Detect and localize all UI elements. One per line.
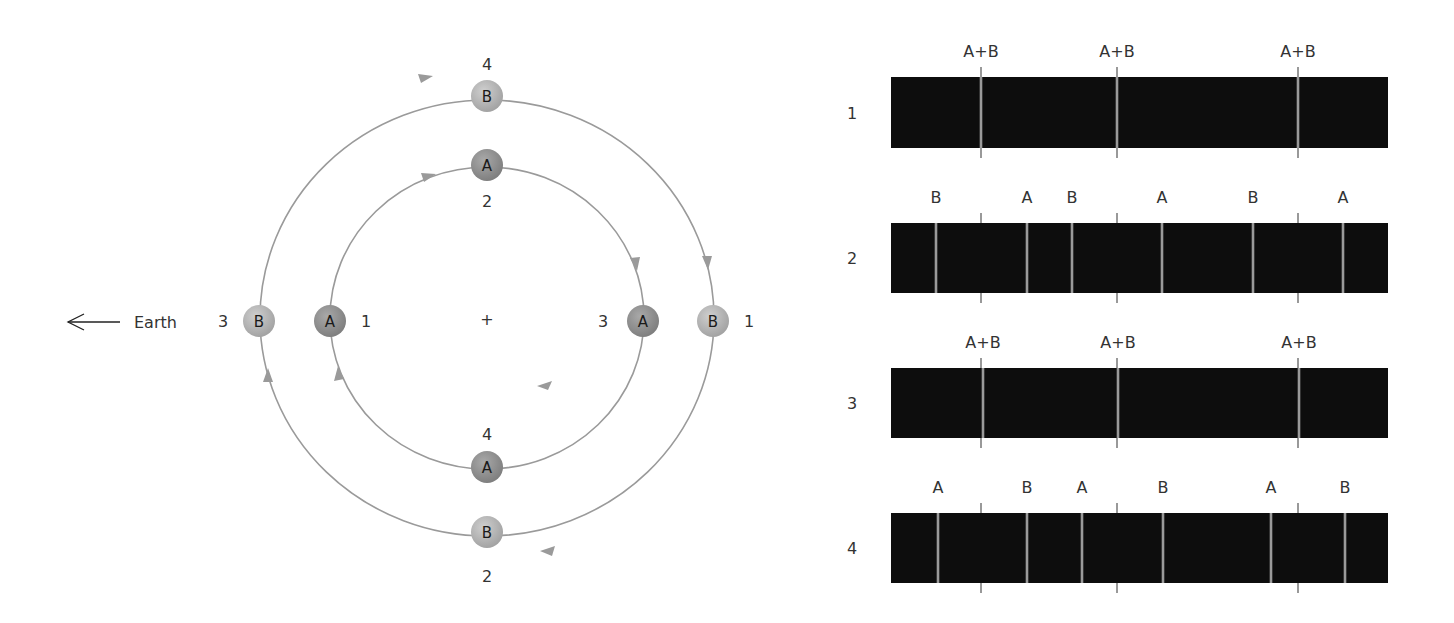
spectral-line-label: B xyxy=(1158,478,1169,497)
spectra-panel: 1A+BA+BA+B2BABABA3A+BA+BA+B4ABABAB xyxy=(847,42,1388,593)
spectral-line-label: A+B xyxy=(1099,42,1134,61)
star-letter: A xyxy=(325,313,336,331)
arrowhead-icon xyxy=(537,381,552,390)
star-letter: A xyxy=(482,157,493,175)
star-a-phase-3: A3 xyxy=(598,305,659,337)
earth-direction: Earth xyxy=(68,313,177,332)
spectrum-row-1: 1A+BA+BA+B xyxy=(847,42,1388,158)
spectral-line-label: A xyxy=(1266,478,1277,497)
phase-number: 3 xyxy=(598,312,608,331)
star-a-phase-2: A2 xyxy=(471,149,503,211)
spectral-line-label: B xyxy=(1340,478,1351,497)
star-letter: B xyxy=(482,524,492,542)
spectral-line-label: B xyxy=(1022,478,1033,497)
spectrum-phase-label: 4 xyxy=(847,539,857,558)
arrowhead-icon xyxy=(263,368,273,382)
star-letter: B xyxy=(708,313,718,331)
arrowhead-icon xyxy=(540,546,555,556)
spectrum-strip xyxy=(891,368,1388,438)
spectrum-phase-label: 2 xyxy=(847,249,857,268)
spectrum-phase-label: 3 xyxy=(847,394,857,413)
phase-number: 1 xyxy=(744,312,754,331)
arrowhead-icon xyxy=(702,256,712,270)
phase-number: 4 xyxy=(482,55,492,74)
arrowhead-icon xyxy=(334,366,344,381)
spectral-line-label: A+B xyxy=(963,42,998,61)
star-letter: B xyxy=(254,313,264,331)
star-letter: A xyxy=(638,313,649,331)
spectrum-row-3: 3A+BA+BA+B xyxy=(847,333,1388,448)
phase-number: 3 xyxy=(218,312,228,331)
spectrum-strip xyxy=(891,513,1388,583)
spectral-line-label: A+B xyxy=(1100,333,1135,352)
phase-number: 4 xyxy=(482,425,492,444)
spectral-line-label: B xyxy=(1248,188,1259,207)
star-letter: B xyxy=(482,88,492,106)
arrowhead-icon xyxy=(418,74,433,83)
star-b-phase-2: B2 xyxy=(471,516,503,586)
phase-number: 2 xyxy=(482,192,492,211)
spectral-line-label: A xyxy=(1077,478,1088,497)
spectral-line-label: A xyxy=(933,478,944,497)
spectrum-row-4: 4ABABAB xyxy=(847,478,1388,593)
star-b-phase-3: B3 xyxy=(218,305,275,337)
spectrum-strip xyxy=(891,223,1388,293)
spectral-line-label: A+B xyxy=(965,333,1000,352)
phase-number: 2 xyxy=(482,567,492,586)
spectrum-phase-label: 1 xyxy=(847,104,857,123)
spectral-line-label: B xyxy=(931,188,942,207)
binary-star-diagram: Earth + B4A2B3A1A3B1A4B2 1A+BA+BA+B2BABA… xyxy=(0,0,1454,623)
spectrum-strip xyxy=(891,77,1388,148)
star-a-phase-1: A1 xyxy=(314,305,371,337)
spectrum-row-2: 2BABABA xyxy=(847,188,1388,303)
spectral-line-label: A+B xyxy=(1280,42,1315,61)
star-b-phase-1: B1 xyxy=(697,305,754,337)
star-a-phase-4: A4 xyxy=(471,425,503,483)
star-letter: A xyxy=(482,459,493,477)
spectral-line-label: A xyxy=(1157,188,1168,207)
center-of-mass-mark: + xyxy=(480,310,493,329)
arrow-left-icon xyxy=(68,314,120,330)
earth-label: Earth xyxy=(134,313,177,332)
spectral-line-label: B xyxy=(1067,188,1078,207)
star-b-phase-4: B4 xyxy=(471,55,503,112)
phase-number: 1 xyxy=(361,312,371,331)
spectral-line-label: A xyxy=(1338,188,1349,207)
spectral-line-label: A xyxy=(1022,188,1033,207)
spectral-line-label: A+B xyxy=(1281,333,1316,352)
